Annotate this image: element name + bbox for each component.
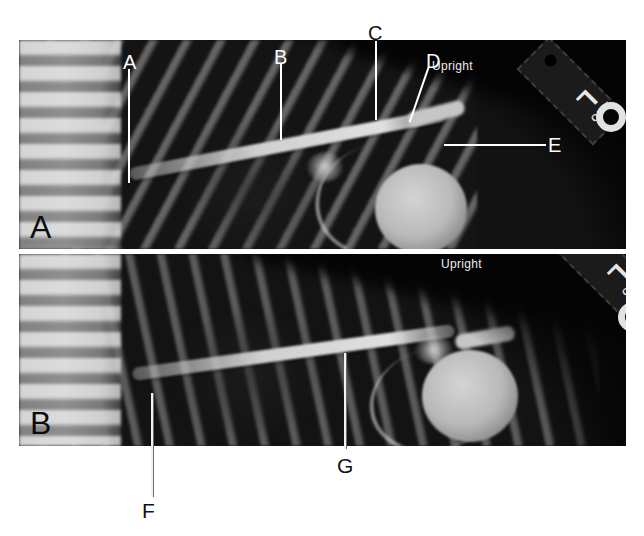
- figure-page: L AAO L AAO A B C D Upright E A Upright: [0, 0, 644, 536]
- leader-line-g: [344, 353, 347, 449]
- leader-line-a: [128, 69, 130, 183]
- annotation-label-b: B: [274, 47, 287, 67]
- tag-hole: [542, 52, 559, 69]
- annotation-label-f: F: [142, 500, 155, 521]
- leader-line-b: [280, 64, 282, 140]
- xray-panel-b: L AAO: [19, 254, 626, 446]
- panel-letter-a: A: [30, 211, 51, 243]
- leader-line-c: [375, 41, 377, 120]
- annotation-label-a: A: [123, 52, 136, 72]
- annotation-label-g: G: [337, 455, 353, 476]
- upright-text-top: Upright: [432, 60, 473, 72]
- annotation-label-e: E: [548, 135, 561, 155]
- upright-text-bottom: Upright: [441, 258, 482, 270]
- left-side-marker-letter: L: [603, 259, 626, 289]
- marker-ring: [596, 102, 626, 132]
- annotation-label-c: C: [368, 23, 382, 43]
- panel-letter-b: B: [30, 407, 51, 439]
- leader-line-f: [151, 393, 154, 497]
- leader-line-e: [444, 144, 546, 146]
